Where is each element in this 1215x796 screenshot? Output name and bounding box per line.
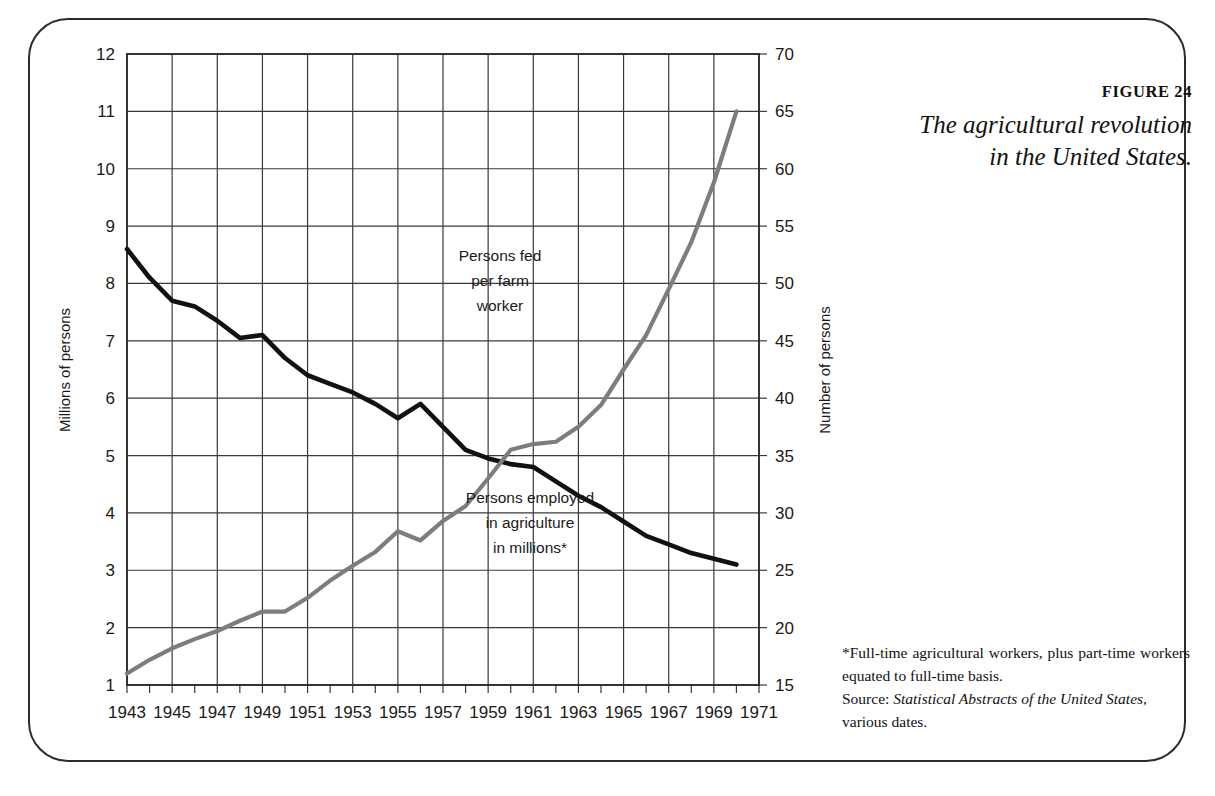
x-tick-label: 1955 bbox=[379, 703, 417, 722]
y2-tick-label: 25 bbox=[775, 561, 794, 580]
x-tick-label: 1945 bbox=[153, 703, 191, 722]
y2-tick-label: 65 bbox=[775, 102, 794, 121]
source-note: Source: Statistical Abstracts of the Uni… bbox=[842, 688, 1190, 734]
x-tick-label: 1965 bbox=[605, 703, 643, 722]
y2-tick-label: 20 bbox=[775, 619, 794, 638]
y2-tick-label: 55 bbox=[775, 217, 794, 236]
y-tick-label: 5 bbox=[106, 447, 115, 466]
y-tick-label: 4 bbox=[106, 504, 115, 523]
source-label: Source: bbox=[842, 690, 893, 707]
annotation-persons-employed: Persons employed in agriculture in milli… bbox=[466, 489, 594, 556]
y-tick-label: 10 bbox=[96, 160, 115, 179]
y-tick-label: 1 bbox=[106, 676, 115, 695]
x-tick-label: 1963 bbox=[560, 703, 598, 722]
x-tick-label: 1967 bbox=[650, 703, 688, 722]
y-tick-label: 9 bbox=[106, 217, 115, 236]
axis-ticks bbox=[127, 54, 767, 693]
x-tick-label: 1959 bbox=[469, 703, 507, 722]
y2-tick-label: 35 bbox=[775, 447, 794, 466]
x-tick-label: 1943 bbox=[108, 703, 146, 722]
persons-fed-label-line3: worker bbox=[476, 297, 524, 314]
persons-employed-label-line3: in millions* bbox=[493, 539, 567, 556]
y-tick-label: 3 bbox=[106, 561, 115, 580]
persons-fed-label-line1: Persons fed bbox=[459, 247, 542, 264]
y-tick-label: 7 bbox=[106, 332, 115, 351]
figure-title-block: FIGURE 24 The agricultural revolution in… bbox=[820, 80, 1192, 173]
persons-employed-label-line1: Persons employed bbox=[466, 489, 594, 506]
y-tick-label: 11 bbox=[97, 102, 115, 121]
x-axis-tick-labels: 1943194519471949195119531955195719591961… bbox=[108, 703, 778, 722]
annotation-persons-fed: Persons fed per farm worker bbox=[459, 247, 542, 314]
y-tick-label: 8 bbox=[106, 274, 115, 293]
x-tick-label: 1957 bbox=[424, 703, 462, 722]
x-tick-label: 1953 bbox=[334, 703, 372, 722]
figure-number: FIGURE 24 bbox=[820, 80, 1192, 105]
x-tick-label: 1969 bbox=[695, 703, 733, 722]
figure-title: The agricultural revolution in the Unite… bbox=[820, 109, 1192, 173]
y2-axis-title: Number of persons bbox=[816, 306, 833, 434]
x-tick-label: 1971 bbox=[740, 703, 778, 722]
y2-tick-label: 30 bbox=[775, 504, 794, 523]
x-tick-label: 1949 bbox=[244, 703, 282, 722]
persons-fed-label-line2: per farm bbox=[471, 272, 529, 289]
figure-title-line2: in the United States. bbox=[820, 141, 1192, 173]
x-tick-label: 1961 bbox=[514, 703, 552, 722]
x-tick-label: 1951 bbox=[289, 703, 327, 722]
x-tick-label: 1947 bbox=[198, 703, 236, 722]
y-axis-title: Millions of persons bbox=[56, 308, 73, 432]
persons-employed-label-line2: in agriculture bbox=[486, 514, 575, 531]
y2-tick-label: 50 bbox=[775, 274, 794, 293]
y-tick-label: 6 bbox=[106, 389, 115, 408]
source-title: Statistical Abstracts of the United Stat… bbox=[893, 690, 1143, 707]
data-series-group bbox=[127, 111, 736, 673]
series-line-1 bbox=[127, 249, 736, 565]
series-line-2 bbox=[127, 111, 736, 673]
figure-notes-block: *Full-time agricultural workers, plus pa… bbox=[842, 642, 1190, 734]
y2-axis-tick-labels: 152025303540455055606570 bbox=[775, 45, 794, 695]
y2-tick-label: 70 bbox=[775, 45, 794, 64]
figure-title-line1: The agricultural revolution bbox=[820, 109, 1192, 141]
figure-card: 1943194519471949195119531955195719591961… bbox=[28, 18, 1186, 762]
footnote: *Full-time agricultural workers, plus pa… bbox=[842, 642, 1190, 688]
grid-lines bbox=[127, 54, 759, 685]
y2-tick-label: 60 bbox=[775, 160, 794, 179]
y-tick-label: 2 bbox=[106, 619, 115, 638]
y-tick-label: 12 bbox=[96, 45, 115, 64]
y2-tick-label: 45 bbox=[775, 332, 794, 351]
y2-tick-label: 40 bbox=[775, 389, 794, 408]
y2-tick-label: 15 bbox=[775, 676, 794, 695]
y-axis-tick-labels: 123456789101112 bbox=[96, 45, 115, 695]
